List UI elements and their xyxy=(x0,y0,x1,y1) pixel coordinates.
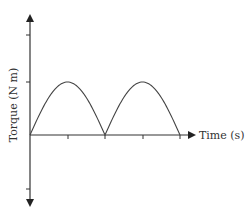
y-axis-label: Torque (N m) xyxy=(7,68,20,143)
torque-curve xyxy=(30,82,180,135)
x-axis-label: Time (s) xyxy=(199,129,245,142)
torque-time-chart: Time (s) Torque (N m) xyxy=(0,0,251,219)
